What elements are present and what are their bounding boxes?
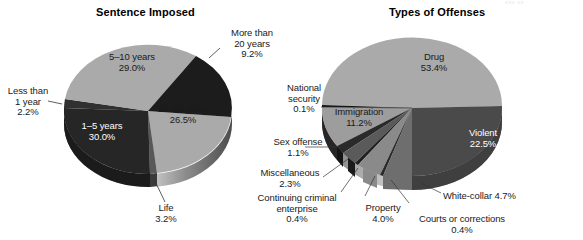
slice-label-less-than-1-year: Less than 1 year 2.2% — [4, 86, 52, 118]
slice-label-life: Life 3.2% — [142, 203, 190, 224]
slice-label-1-5-years: 1–5 years 30.0% — [62, 121, 142, 142]
figure-two-pie-charts: xxx xx Sentence Imposed — [0, 0, 583, 240]
slice-label-drug: Drug 53.4% — [404, 52, 464, 73]
slice-label-violent: Violent 22.5% — [453, 128, 513, 149]
chart-panel-types-of-offenses: Types of Offenses — [291, 0, 583, 240]
slice-label-10-20-years: 10–20 years 26.5% — [145, 104, 221, 125]
slice-label-courts-or-corrections: Courts or corrections 0.4% — [402, 214, 522, 235]
slice-label-continuing-criminal-enterprise: Continuing criminal enterprise 0.4% — [249, 193, 345, 225]
slice-label-miscellaneous: Miscellaneous 2.3% — [249, 168, 331, 189]
slice-label-5-10-years: 5–10 years 29.0% — [92, 52, 172, 73]
pie-3d-rim-life — [150, 173, 157, 187]
slice-label-sex-offense: Sex offense 1.1% — [253, 137, 343, 158]
chart-panel-sentence-imposed: Sentence Imposed — [0, 0, 291, 240]
slice-label-national-security: National security 0.1% — [276, 83, 332, 115]
slice-label-white-collar: White-collar 4.7% — [443, 191, 516, 202]
slice-label-more-than-20-years: More than 20 years 9.2% — [216, 28, 288, 60]
